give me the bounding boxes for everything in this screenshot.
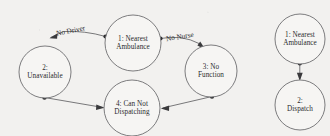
node-dispatch bbox=[275, 80, 325, 130]
node-unavailable bbox=[19, 46, 71, 98]
diagram-canvas: 1: Nearest Ambulance 2: Unavailable 3: N… bbox=[0, 0, 330, 136]
node-nearest-ambulance bbox=[105, 15, 161, 71]
node-nearest-ambulance-right bbox=[275, 14, 325, 64]
diagram-svg bbox=[0, 0, 330, 136]
node-can-not-dispatching bbox=[104, 80, 160, 136]
node-no-function bbox=[185, 45, 237, 97]
